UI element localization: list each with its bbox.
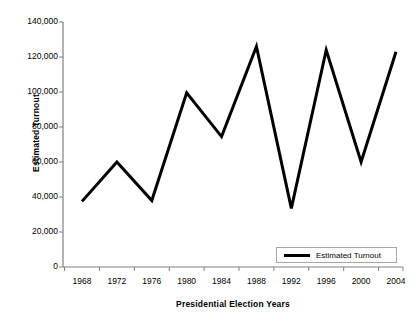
axes-group	[59, 22, 403, 271]
data-series-line	[82, 47, 396, 209]
chart-legend: Estimated Turnout	[276, 247, 397, 263]
legend-label: Estimated Turnout	[316, 251, 381, 260]
legend-line-swatch	[284, 254, 310, 257]
chart-container: Estimated Turnout Presidential Election …	[0, 0, 418, 321]
plot-area	[0, 0, 418, 321]
